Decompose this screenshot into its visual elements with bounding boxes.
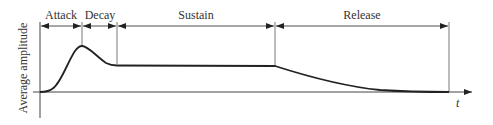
phase-label-decay: Decay <box>85 8 116 22</box>
envelope-curve <box>40 46 449 92</box>
x-axis-label: t <box>456 96 460 110</box>
adsr-diagram: Attack Decay Sustain Release Average amp… <box>0 0 493 125</box>
phase-label-release: Release <box>343 8 380 22</box>
phase-label-sustain: Sustain <box>178 8 213 22</box>
y-axis-label: Average amplitude <box>16 23 30 114</box>
phase-label-attack: Attack <box>45 8 77 22</box>
